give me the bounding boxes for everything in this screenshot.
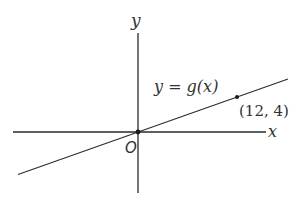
function-line	[18, 79, 288, 174]
origin-label: O	[125, 139, 137, 157]
function-label: y = g(x)	[153, 77, 218, 96]
origin-point	[136, 130, 141, 135]
marked-point	[235, 95, 239, 99]
x-axis-label: x	[268, 122, 277, 141]
y-axis-label: y	[130, 10, 141, 30]
coordinate-plane: y x O y = g(x) (12, 4)	[0, 0, 298, 205]
point-label: (12, 4)	[239, 102, 289, 120]
